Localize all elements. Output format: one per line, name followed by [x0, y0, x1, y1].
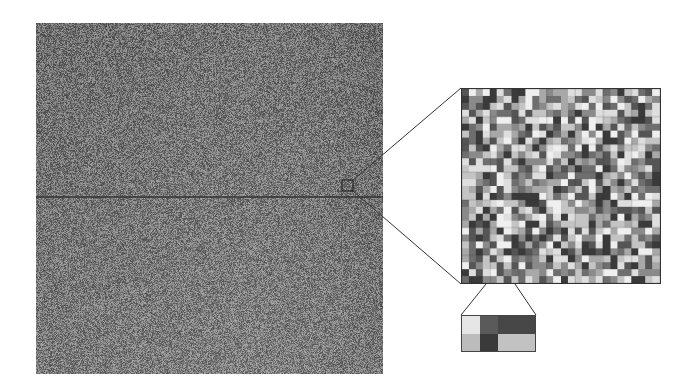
zoomed-pixel-grid [461, 88, 661, 284]
connector-line [461, 284, 486, 315]
inset-pixel [498, 316, 535, 334]
connector-line [515, 284, 536, 315]
inset-pixel [462, 316, 480, 334]
inset-pixel [480, 334, 498, 352]
inset-pixel [462, 334, 480, 352]
inset-pixel [498, 334, 535, 352]
noise-image [36, 23, 383, 374]
inset-pixel [480, 316, 498, 334]
pixel-inset [461, 315, 536, 352]
